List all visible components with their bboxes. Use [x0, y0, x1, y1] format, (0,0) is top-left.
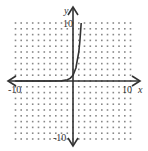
x-axis-label: x	[137, 84, 143, 95]
y-max-label: 10	[63, 18, 73, 29]
exponential-curve	[16, 23, 82, 81]
graph: y 10 -10 10 x -10	[0, 0, 148, 151]
y-min-label: -10	[53, 132, 66, 143]
x-max-label: 10	[122, 84, 132, 95]
x-min-label: -10	[8, 84, 21, 95]
y-axis-label: y	[63, 5, 69, 16]
